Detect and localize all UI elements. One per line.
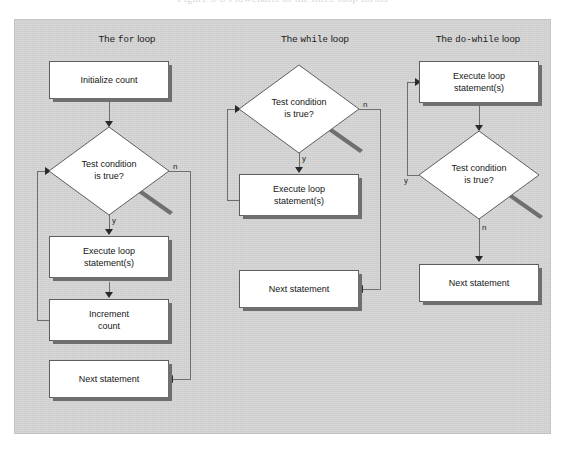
label-line-2: statement(s) [453, 82, 505, 94]
label-line-1: Execute loop [273, 183, 325, 195]
dowhile-node-next-statement-label: Next statement [449, 277, 510, 289]
column-title-suffix: loop [328, 33, 349, 44]
diamond-shape [49, 127, 177, 219]
for-node-next-statement-label: Next statement [79, 373, 140, 385]
diamond-body [49, 127, 169, 215]
for-node-next-statement: Next statement [49, 360, 169, 398]
label-line-2: count [89, 320, 129, 332]
while-node-execute-loop-label: Execute loop statement(s) [273, 183, 325, 207]
column-title-prefix: The [436, 33, 455, 44]
while-node-execute-loop: Execute loop statement(s) [239, 174, 359, 216]
for-node-test-condition: Test condition is true? [49, 127, 173, 215]
while-edge-no-vertical [380, 109, 381, 289]
box-shadow-bottom [53, 340, 172, 344]
for-node-initialize-count: Initialize count [49, 61, 169, 99]
dowhile-edge-yes-vertical [407, 82, 408, 176]
dowhile-arrow-no-to-next [475, 256, 483, 262]
box-shadow-right [168, 364, 172, 401]
column-title-while-loop: The while loop [237, 33, 393, 45]
dowhile-node-execute-loop-label: Execute loop statement(s) [453, 70, 505, 94]
column-title-prefix: The [281, 33, 300, 44]
for-edge-no-vertical [190, 171, 191, 379]
for-node-initialize-count-label: Initialize count [80, 74, 137, 86]
for-edge-loopback-vertical [37, 171, 38, 321]
dowhile-node-execute-loop: Execute loop statement(s) [419, 61, 539, 103]
box-shadow-bottom [53, 397, 172, 401]
dowhile-node-test-condition: Test condition is true? [419, 131, 543, 219]
diamond-body [419, 131, 539, 219]
box-shadow-right [168, 65, 172, 102]
while-arrow-yes-to-execute [295, 167, 303, 173]
while-edge-loopback-vertical [227, 109, 228, 201]
for-node-increment-count: Increment count [49, 299, 169, 341]
for-node-execute-loop-label: Execute loop statement(s) [83, 245, 135, 269]
figure-caption-text: Figure 5-8 Flowcharts of the three loop … [177, 0, 387, 4]
while-node-next-statement: Next statement [239, 270, 359, 308]
box-shadow-bottom [423, 102, 542, 106]
dowhile-edge-no-vertical [479, 218, 480, 260]
diamond-shape [419, 131, 547, 223]
diamond-shape [239, 65, 367, 157]
diamond-body [239, 65, 359, 153]
box-shadow-right [168, 240, 172, 281]
figure-caption: Figure 5-8 Flowcharts of the three loop … [0, 0, 565, 14]
label-line-1: Increment [89, 308, 129, 320]
box-shadow-bottom [53, 98, 172, 102]
box-shadow-right [358, 274, 362, 311]
while-edge-label-no: n [363, 100, 367, 109]
column-title-do-while-loop: The do-while loop [405, 33, 551, 45]
column-title-for-loop: The for loop [49, 33, 205, 45]
box-shadow-right [538, 65, 542, 106]
while-node-test-condition: Test condition is true? [239, 65, 363, 153]
while-edge-no-into-next [360, 289, 381, 290]
for-arrow-execute-to-increment [105, 292, 113, 298]
for-node-increment-count-label: Increment count [89, 308, 129, 332]
box-shadow-bottom [243, 215, 362, 219]
while-node-next-statement-label: Next statement [269, 283, 330, 295]
for-edge-label-no: n [173, 162, 177, 171]
column-title-keyword: do-while [455, 35, 499, 45]
figure-page: Figure 5-8 Flowcharts of the three loop … [0, 0, 565, 454]
while-edge-label-yes: y [302, 154, 306, 163]
box-shadow-bottom [423, 301, 542, 305]
label-line-1: Execute loop [83, 245, 135, 257]
for-edge-label-yes: y [112, 216, 116, 225]
column-title-prefix: The [98, 33, 117, 44]
dowhile-edge-label-no: n [482, 223, 486, 232]
column-title-keyword: for [118, 35, 135, 45]
dowhile-edge-label-yes: y [404, 176, 408, 185]
for-edge-no-into-next [170, 379, 191, 380]
box-shadow-bottom [243, 307, 362, 311]
column-title-suffix: loop [134, 33, 155, 44]
dowhile-node-next-statement: Next statement [419, 264, 539, 302]
column-title-keyword: while [300, 35, 328, 45]
label-line-1: Execute loop [453, 70, 505, 82]
box-shadow-right [168, 303, 172, 344]
for-node-execute-loop: Execute loop statement(s) [49, 236, 169, 278]
diagram-stage: The for loop The while loop The do-while… [15, 20, 552, 435]
box-shadow-bottom [53, 277, 172, 281]
box-shadow-right [358, 178, 362, 219]
label-line-2: statement(s) [83, 257, 135, 269]
column-title-suffix: loop [499, 33, 520, 44]
box-shadow-right [538, 268, 542, 305]
diagram-frame: The for loop The while loop The do-while… [14, 19, 551, 434]
for-arrow-yes-to-execute [105, 229, 113, 235]
label-line-2: statement(s) [273, 195, 325, 207]
